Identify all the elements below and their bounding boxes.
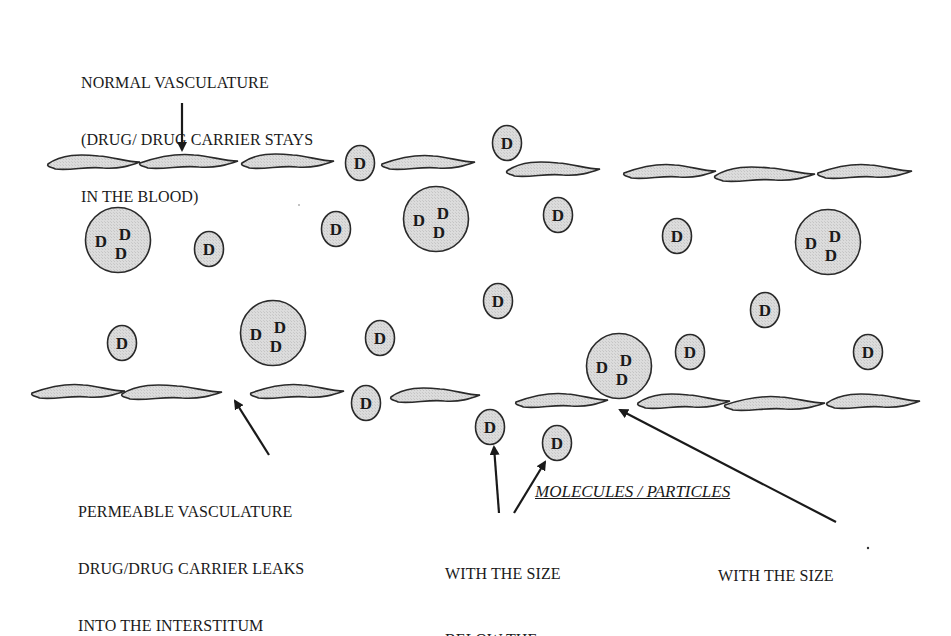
drug-symbol: D	[413, 211, 425, 230]
drug-symbol: D	[552, 206, 564, 225]
drug-symbol: D	[116, 334, 128, 353]
drug-symbol: D	[374, 329, 386, 348]
label-line: INTO THE INTERSTITUM	[78, 616, 304, 635]
endothelial-cell	[516, 394, 608, 408]
drug-symbol: D	[862, 343, 874, 362]
drug-symbol: D	[250, 325, 262, 344]
drug-symbol: D	[551, 434, 563, 453]
drug-symbol: D	[95, 232, 107, 251]
drug-symbol: D	[119, 225, 131, 244]
small-drug-particle: D	[346, 146, 375, 181]
label-line: BELOW THE	[445, 629, 564, 636]
label-line: DRUG/DRUG CARRIER LEAKS	[78, 559, 304, 578]
endothelial-cell	[715, 167, 815, 182]
below-cutoff-label: WITH THE SIZE BELOW THE “CUT-OFF” CAN EX…	[445, 519, 564, 636]
drug-symbol: D	[433, 223, 445, 242]
drug-symbol: D	[825, 246, 837, 265]
small-drug-particle: D	[366, 321, 395, 356]
drug-symbol: D	[270, 337, 282, 356]
label-line: NORMAL VASCULATURE	[81, 73, 313, 92]
drug-symbol: D	[492, 292, 504, 311]
small-drug-particle: D	[108, 326, 137, 361]
endothelial-cell	[725, 397, 825, 411]
endothelial-cell	[32, 385, 125, 399]
large-drug-carrier: DDD	[404, 187, 469, 252]
small-drug-particle: D	[544, 198, 573, 233]
endothelial-cell	[122, 385, 222, 400]
small-drug-particle: D	[352, 386, 381, 421]
label-line: WITH THE SIZE	[445, 563, 564, 585]
drug-symbol: D	[829, 227, 841, 246]
drug-symbol: D	[620, 351, 632, 370]
endothelial-cell	[382, 156, 475, 170]
permeable-vessel-wall	[32, 385, 920, 411]
normal-vasculature-label: NORMAL VASCULATURE (DRUG/ DRUG CARRIER S…	[81, 35, 313, 225]
endothelial-cell	[818, 165, 912, 179]
drug-symbol: D	[596, 358, 608, 377]
above-cutoff-arrow	[620, 410, 836, 522]
small-drug-particle: D	[484, 284, 513, 319]
large-drug-carrier: DDD	[241, 301, 306, 366]
permeable-vasculature-label: PERMEABLE VASCULATURE DRUG/DRUG CARRIER …	[78, 464, 304, 636]
drug-symbol: D	[437, 204, 449, 223]
drug-symbol: D	[274, 318, 286, 337]
small-drug-particle: D	[543, 426, 572, 461]
drug-symbol: D	[203, 240, 215, 259]
label-line: WITH THE SIZE	[718, 565, 834, 587]
small-drug-particle: D	[676, 335, 705, 370]
small-drug-particle: D	[751, 293, 780, 328]
drug-symbol: D	[616, 370, 628, 389]
label-line: ABOVE THE	[718, 631, 834, 636]
label-line: PERMEABLE VASCULATURE	[78, 502, 304, 521]
molecules-particles-label: MOLECULES / PARTICLES	[535, 482, 730, 502]
drug-symbol: D	[360, 394, 372, 413]
permeable-vasculature-arrow	[235, 401, 269, 455]
small-drug-particle: D	[195, 232, 224, 267]
small-drug-particle: D	[663, 219, 692, 254]
drug-symbol: D	[484, 418, 496, 437]
small-drug-particle: D	[854, 335, 883, 370]
drug-symbol: D	[684, 343, 696, 362]
endothelial-cell	[251, 385, 344, 399]
speck	[867, 547, 869, 549]
above-cutoff-label: WITH THE SIZE ABOVE THE “CUT-OFF” – CAN …	[718, 521, 834, 636]
drug-symbol: D	[330, 220, 342, 239]
endothelial-cell	[391, 388, 480, 403]
endothelial-cell	[827, 394, 920, 409]
drug-symbol: D	[759, 301, 771, 320]
label-line: IN THE BLOOD)	[81, 187, 313, 206]
drug-symbol: D	[115, 244, 127, 263]
small-drug-particle: D	[493, 126, 522, 161]
drug-symbol: D	[354, 154, 366, 173]
label-line: (DRUG/ DRUG CARRIER STAYS	[81, 130, 313, 149]
large-drug-carrier: DDD	[587, 334, 652, 399]
large-drug-carrier: DDD	[796, 210, 861, 275]
endothelial-cell	[638, 394, 730, 409]
drug-symbol: D	[805, 234, 817, 253]
drug-symbol: D	[501, 134, 513, 153]
small-drug-particle: D	[322, 212, 351, 247]
small-drug-particle: D	[476, 410, 505, 445]
below-cutoff-arrow-1	[494, 447, 499, 513]
endothelial-cell	[507, 162, 600, 177]
drug-symbol: D	[671, 227, 683, 246]
endothelial-cell	[624, 165, 716, 179]
